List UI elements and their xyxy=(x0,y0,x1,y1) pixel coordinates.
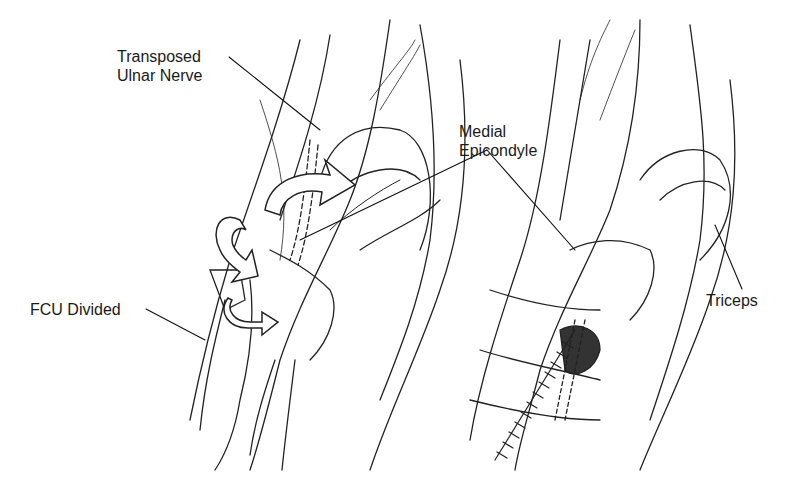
right-arm-drawing xyxy=(470,20,735,470)
label-fcu-divided: FCU Divided xyxy=(30,300,121,319)
label-transposed-ulnar-nerve-line2: Ulnar Nerve xyxy=(117,66,202,85)
leader-lines xyxy=(146,57,742,340)
label-transposed-ulnar-nerve-line1: Transposed xyxy=(117,47,201,66)
label-medial-epicondyle-line2: Epicondyle xyxy=(459,141,537,160)
label-medial-epicondyle-line1: Medial xyxy=(459,122,506,141)
label-triceps: Triceps xyxy=(706,291,758,310)
anatomical-illustration: Transposed Ulnar Nerve Medial Epicondyle… xyxy=(0,0,804,477)
suture-marks xyxy=(495,330,575,460)
